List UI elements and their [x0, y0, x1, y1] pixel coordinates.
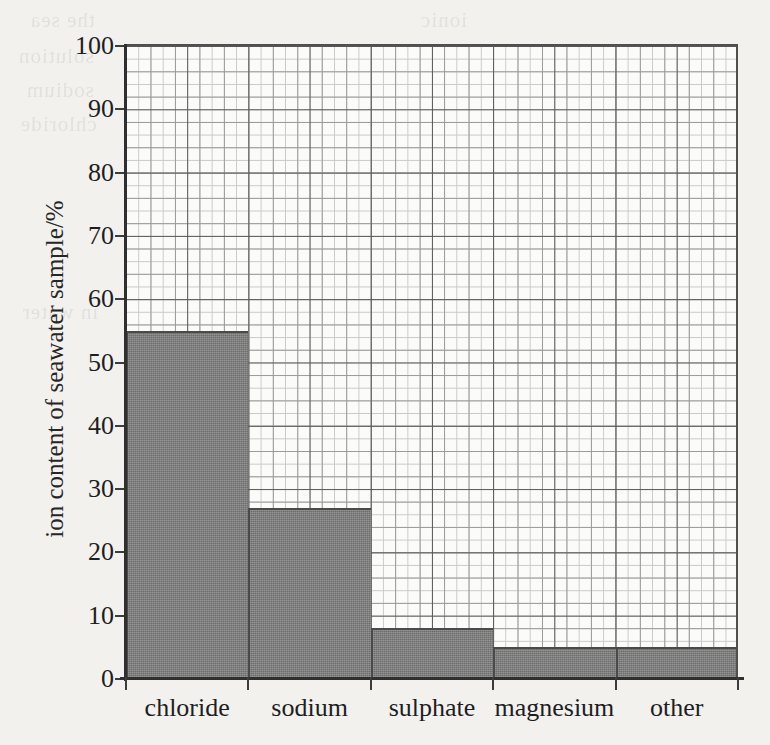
- x-tick-label: chloride: [145, 694, 230, 723]
- plot-top-border: [126, 44, 738, 46]
- x-tick-mark: [125, 677, 127, 690]
- bar: [126, 331, 248, 679]
- bar: [493, 647, 615, 679]
- bar: [371, 628, 493, 679]
- bar-series: [126, 46, 738, 679]
- x-tick-label: sodium: [271, 694, 348, 723]
- x-axis-line: [120, 677, 744, 680]
- x-tick-mark: [615, 677, 617, 690]
- x-tick-mark: [737, 677, 739, 690]
- y-tick-label: 90: [4, 96, 114, 122]
- y-axis-tick-labels: 0102030405060708090100: [0, 0, 114, 745]
- y-tick-label: 40: [4, 413, 114, 439]
- x-tick-mark: [247, 677, 249, 690]
- y-tick-label: 100: [4, 33, 114, 59]
- bar: [248, 508, 370, 679]
- y-tick-label: 0: [4, 666, 114, 692]
- plot-area: [126, 46, 738, 679]
- x-tick-label: magnesium: [494, 694, 614, 723]
- bar-chart-figure: ion content of seawater sample/% 0102030…: [0, 0, 770, 745]
- x-tick-mark: [370, 677, 372, 690]
- x-tick-label: sulphate: [389, 694, 476, 723]
- x-tick-mark: [492, 677, 494, 690]
- bar: [616, 647, 738, 679]
- y-tick-label: 80: [4, 160, 114, 186]
- y-axis-line: [124, 44, 127, 681]
- y-tick-label: 50: [4, 350, 114, 376]
- y-tick-label: 10: [4, 603, 114, 629]
- y-tick-label: 60: [4, 286, 114, 312]
- y-tick-label: 20: [4, 539, 114, 565]
- y-tick-label: 30: [4, 476, 114, 502]
- x-tick-label: other: [650, 694, 703, 723]
- plot-right-border: [736, 46, 738, 679]
- y-tick-label: 70: [4, 223, 114, 249]
